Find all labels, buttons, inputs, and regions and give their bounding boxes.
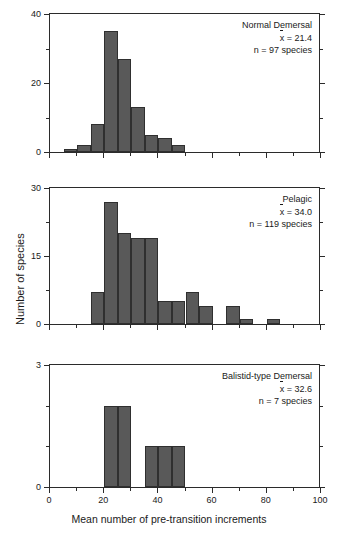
histogram-bar: [158, 446, 172, 487]
panel-mean-normal-demersal: x = 21.4: [242, 32, 312, 45]
y-tick-label: 0: [5, 483, 41, 492]
y-tick-major-right: [320, 365, 325, 366]
y-tick-label: 0: [5, 148, 41, 157]
histogram-bar: [104, 406, 118, 487]
x-tick-minor: [293, 153, 294, 156]
x-tick-minor: [239, 325, 240, 328]
histogram-bar: [77, 145, 91, 152]
y-tick-minor-right: [320, 406, 323, 407]
y-tick-minor: [46, 49, 49, 50]
y-tick-minor-right: [320, 446, 323, 447]
x-tick-major: [266, 325, 267, 330]
histogram-bar: [145, 446, 159, 487]
x-tick-major: [320, 153, 321, 158]
y-tick-minor: [46, 118, 49, 119]
histogram-bar: [91, 124, 105, 152]
x-tick-label: 80: [246, 496, 286, 505]
y-tick-major-right: [320, 14, 325, 15]
y-tick-minor: [46, 406, 49, 407]
x-tick-minor: [239, 153, 240, 156]
x-tick-major: [103, 488, 104, 493]
y-tick-minor-right: [320, 49, 323, 50]
y-tick-major: [44, 256, 49, 257]
x-tick-minor: [185, 325, 186, 328]
x-tick-minor: [293, 325, 294, 328]
histogram-bar: [118, 59, 132, 152]
annotation-balistid-type-demersal: Balistid-type Demersal x = 32.6 n = 7 sp…: [222, 370, 312, 408]
x-tick-major: [212, 153, 213, 158]
x-tick-major: [49, 488, 50, 493]
histogram-bar: [172, 145, 186, 152]
panel-title-balistid-type-demersal: Balistid-type Demersal: [222, 370, 312, 383]
x-tick-minor: [130, 325, 131, 328]
y-tick-minor: [46, 222, 49, 223]
x-tick-major: [157, 488, 158, 493]
panel-title-normal-demersal: Normal Demersal: [242, 19, 312, 32]
panel-n-pelagic: n = 119 species: [249, 218, 312, 231]
histogram-bar: [118, 406, 132, 487]
x-tick-label: 0: [29, 496, 69, 505]
y-tick-minor-right: [320, 222, 323, 223]
panel-mean-balistid-type-demersal: x = 32.6: [222, 383, 312, 396]
y-tick-minor: [46, 446, 49, 447]
x-tick-minor: [76, 153, 77, 156]
x-tick-minor: [185, 488, 186, 491]
histogram-bar: [145, 135, 159, 152]
y-tick-label: 3: [5, 361, 41, 370]
y-tick-label: 40: [5, 10, 41, 19]
x-tick-major: [157, 153, 158, 158]
y-axis-title: Number of species: [14, 233, 26, 325]
y-tick-minor-right: [320, 290, 323, 291]
y-tick-minor: [46, 290, 49, 291]
x-axis-title: Mean number of pre-transition increments: [0, 513, 338, 525]
histogram-bar: [267, 319, 281, 324]
x-tick-label: 100: [300, 496, 338, 505]
y-tick-major: [44, 83, 49, 84]
histogram-figure: 02040 Normal Demersal x = 21.4 n = 97 sp…: [0, 0, 338, 544]
x-tick-minor: [185, 153, 186, 156]
y-tick-label: 20: [5, 79, 41, 88]
y-tick-label: 30: [5, 184, 41, 193]
x-tick-major: [320, 325, 321, 330]
y-tick-major-right: [320, 188, 325, 189]
annotation-normal-demersal: Normal Demersal x = 21.4 n = 97 species: [242, 19, 312, 57]
x-tick-minor: [130, 153, 131, 156]
x-tick-major: [212, 488, 213, 493]
x-tick-label: 60: [192, 496, 232, 505]
x-tick-major: [157, 325, 158, 330]
x-tick-minor: [76, 325, 77, 328]
x-tick-minor: [76, 488, 77, 491]
histogram-bar: [145, 238, 159, 324]
histogram-bar: [91, 292, 105, 324]
x-tick-major: [103, 153, 104, 158]
y-tick-major: [44, 14, 49, 15]
panel-mean-pelagic: x = 34.0: [249, 206, 312, 219]
annotation-pelagic: Pelagic x = 34.0 n = 119 species: [249, 193, 312, 231]
x-tick-minor: [293, 488, 294, 491]
histogram-bar: [131, 238, 145, 324]
x-tick-major: [212, 325, 213, 330]
x-tick-major: [49, 325, 50, 330]
histogram-bar: [158, 138, 172, 152]
panel-n-normal-demersal: n = 97 species: [242, 44, 312, 57]
x-tick-major: [49, 153, 50, 158]
x-tick-minor: [239, 488, 240, 491]
histogram-bar: [118, 233, 132, 324]
histogram-bar: [226, 306, 240, 324]
x-tick-label: 20: [83, 496, 123, 505]
histogram-bar: [172, 446, 186, 487]
histogram-bar: [64, 149, 78, 152]
x-tick-major: [320, 488, 321, 493]
y-tick-major-right: [320, 83, 325, 84]
histogram-bar: [199, 306, 213, 324]
x-tick-major: [266, 153, 267, 158]
histogram-bar: [240, 319, 254, 324]
y-tick-minor-right: [320, 118, 323, 119]
y-tick-major-right: [320, 256, 325, 257]
histogram-bar: [104, 202, 118, 324]
y-tick-major: [44, 365, 49, 366]
x-tick-minor: [130, 488, 131, 491]
histogram-bar: [104, 31, 118, 152]
x-tick-major: [266, 488, 267, 493]
histogram-bar: [158, 301, 172, 324]
